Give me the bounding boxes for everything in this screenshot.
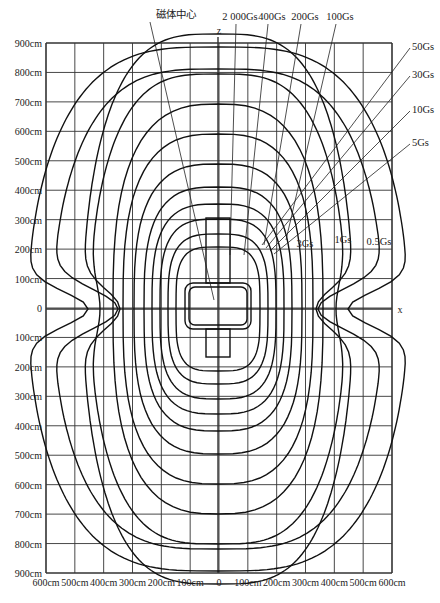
labels: 900cm800cm700cm600cm500cm400cm300cm200cm… <box>15 8 434 588</box>
gauss-label: 1Gs <box>335 234 352 245</box>
y-tick-label: 900cm <box>15 38 42 49</box>
gauss-label: 30Gs <box>412 69 434 80</box>
x-tick-label: 200cm <box>148 577 175 588</box>
x-tick-label: 100cm <box>234 577 261 588</box>
x-axis-label: x <box>398 304 403 315</box>
fringe-field-diagram: 900cm800cm700cm600cm500cm400cm300cm200cm… <box>0 0 440 603</box>
gauss-label: 3Gs <box>297 238 314 249</box>
gauss-label: 400Gs <box>258 11 285 22</box>
gauss-label: 100Gs <box>326 11 353 22</box>
y-tick-label: 600cm <box>15 126 42 137</box>
magnet-center-label: 磁体中心 <box>156 8 197 20</box>
y-tick-label: 200cm <box>15 362 42 373</box>
y-tick-label: 300cm <box>15 391 42 402</box>
x-tick-label: 300cm <box>119 577 146 588</box>
x-tick-label: 400cm <box>321 577 348 588</box>
y-tick-label: 500cm <box>15 156 42 167</box>
x-tick-label: 600cm <box>32 577 59 588</box>
x-tick-label: 500cm <box>350 577 377 588</box>
gauss-label: 0.5Gs <box>367 236 392 247</box>
x-tick-label: 100cm <box>177 577 204 588</box>
x-tick-label: 600cm <box>378 577 405 588</box>
y-tick-label: 800cm <box>15 539 42 550</box>
y-tick-label: 700cm <box>15 509 42 520</box>
x-tick-label: 200cm <box>263 577 290 588</box>
gauss-label: 200Gs <box>291 11 318 22</box>
y-tick-label: 700cm <box>15 97 42 108</box>
y-tick-label: 600cm <box>15 480 42 491</box>
y-tick-label: 200cm <box>15 244 42 255</box>
y-tick-label: 100cm <box>15 274 42 285</box>
y-tick-label: 400cm <box>15 421 42 432</box>
y-tick-label: 100cm <box>15 332 42 343</box>
gauss-label: 10Gs <box>412 104 434 115</box>
x-tick-label: 300cm <box>292 577 319 588</box>
z-axis-label: z <box>217 25 222 36</box>
y-tick-label: 800cm <box>15 67 42 78</box>
y-tick-label: 300cm <box>15 215 42 226</box>
x-tick-label: 0 <box>217 577 222 588</box>
x-tick-label: 500cm <box>61 577 88 588</box>
gauss-label: 2 000Gs <box>222 11 257 22</box>
y-tick-label: 400cm <box>15 185 42 196</box>
y-tick-label: 0 <box>37 303 42 314</box>
x-tick-label: 400cm <box>90 577 117 588</box>
gauss-label: 50Gs <box>412 41 434 52</box>
y-tick-label: 500cm <box>15 450 42 461</box>
gauss-label: 5Gs <box>412 137 429 148</box>
